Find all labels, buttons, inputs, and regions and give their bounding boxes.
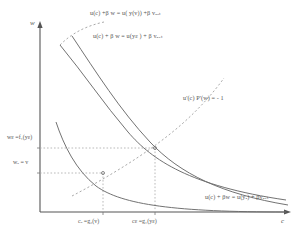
y-tick-label-w-eps: wε =f₁(yε) — [7, 134, 32, 140]
y-tick-label-w-a: wₐ = v — [13, 159, 28, 165]
curve-label-top: u(c) +β w = u( y(v)) +β vₐᵤₜ — [90, 10, 161, 16]
curve-middle — [72, 36, 288, 205]
curve-label-middle: u(c) + β w = u(yε ) + β vₐᵤₜ — [93, 33, 163, 39]
x-tick-label-c-eps: cε =g₁(yε) — [132, 218, 157, 224]
diagram-figure: w c u(c) +β w = u( y(v)) +β vₐᵤₜ u(c) + … — [0, 0, 306, 242]
x-tick-label-c-a: cₐ =g₂(v) — [78, 218, 99, 224]
curve-label-bottom: u(c) + βw = u(yₐ) + βvₐᵤₜ — [205, 194, 269, 200]
y-axis-label: w — [30, 20, 35, 27]
locus-label: u'(c) P'(w) = - 1 — [183, 95, 224, 101]
x-axis-label: c — [281, 218, 284, 225]
indifference-curves — [56, 36, 288, 212]
axis-group — [37, 21, 291, 215]
y-axis-arrow — [37, 21, 42, 28]
